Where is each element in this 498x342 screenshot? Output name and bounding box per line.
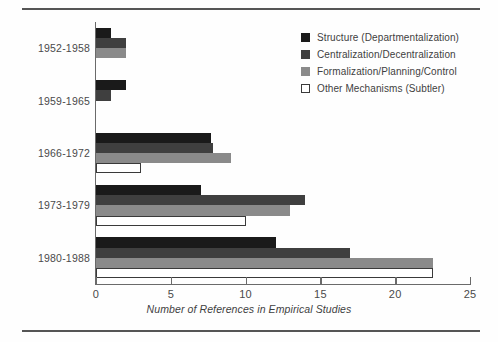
legend-item: Structure (Departmentalization) xyxy=(301,29,491,45)
bar xyxy=(96,237,276,247)
bar xyxy=(96,195,305,205)
x-tick-mark xyxy=(470,277,471,285)
x-tick-mark xyxy=(320,277,321,285)
bar xyxy=(96,153,231,163)
bar xyxy=(96,90,111,100)
dark-gray-square-icon xyxy=(301,50,310,59)
x-tick-label: 20 xyxy=(389,288,402,300)
bar xyxy=(96,163,141,173)
x-tick-mark xyxy=(171,277,172,285)
x-tick-label: 15 xyxy=(314,288,327,300)
x-tick-mark xyxy=(395,277,396,285)
x-tick-label: 25 xyxy=(464,288,477,300)
category-label: 1966-1972 xyxy=(4,147,90,159)
legend-item-label: Structure (Departmentalization) xyxy=(317,32,459,43)
x-axis-line xyxy=(95,284,470,285)
legend-item: Formalization/Planning/Control xyxy=(301,63,491,79)
top-divider-rule xyxy=(22,8,480,10)
legend-item: Centralization/Decentralization xyxy=(301,46,491,62)
bar xyxy=(96,216,246,226)
category-label: 1973-1979 xyxy=(4,199,90,211)
x-tick-mark xyxy=(96,277,97,285)
category-label: 1959-1965 xyxy=(4,95,90,107)
bar xyxy=(96,205,290,215)
bar xyxy=(96,28,111,38)
category-label: 1980-1988 xyxy=(4,252,90,264)
bar xyxy=(96,248,350,258)
figure-container: 1952-19581959-19651966-19721973-19791980… xyxy=(0,0,498,342)
bottom-divider-rule xyxy=(22,330,480,332)
bar xyxy=(96,185,201,195)
x-tick-label: 0 xyxy=(93,288,99,300)
x-axis-title: Number of References in Empirical Studie… xyxy=(0,303,498,315)
bar xyxy=(96,133,211,143)
category-label: 1952-1958 xyxy=(4,42,90,54)
chart-legend: Structure (Departmentalization)Centraliz… xyxy=(301,29,491,97)
bar xyxy=(96,268,433,278)
legend-item-label: Other Mechanisms (Subtler) xyxy=(317,83,445,94)
x-tick-label: 10 xyxy=(239,288,252,300)
bar xyxy=(96,80,126,90)
bar xyxy=(96,38,126,48)
legend-item: Other Mechanisms (Subtler) xyxy=(301,80,491,96)
x-tick-mark xyxy=(246,277,247,285)
black-square-icon xyxy=(301,33,310,42)
category-axis-labels: 1952-19581959-19651966-19721973-19791980… xyxy=(0,0,90,342)
legend-item-label: Formalization/Planning/Control xyxy=(317,66,457,77)
white-square-icon xyxy=(301,84,310,93)
bar xyxy=(96,143,213,153)
x-tick-label: 5 xyxy=(168,288,174,300)
gray-square-icon xyxy=(301,67,310,76)
bar xyxy=(96,258,433,268)
legend-item-label: Centralization/Decentralization xyxy=(317,49,456,60)
bar xyxy=(96,48,126,58)
